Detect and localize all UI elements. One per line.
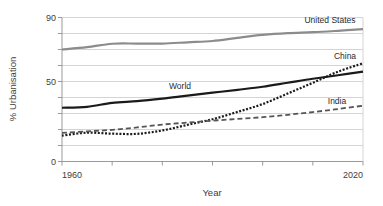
y-axis-ticks	[58, 18, 62, 162]
series-line-united-states	[62, 29, 363, 49]
y-tick-label-50: 50	[46, 77, 56, 87]
series-line-world	[62, 72, 363, 108]
y-tick-label-90: 90	[46, 13, 56, 23]
chart-canvas: 90 50 0 1960 2020 Year % Urbanisation Un…	[0, 0, 383, 206]
plot-frame	[62, 18, 363, 162]
data-series-group	[62, 29, 363, 135]
gridlines-group	[62, 34, 363, 146]
series-label-world: World	[169, 81, 191, 91]
y-tick-label-0: 0	[51, 157, 56, 167]
x-axis-ticks	[62, 162, 363, 166]
series-label-india: India	[328, 96, 347, 106]
series-line-china	[62, 63, 363, 135]
x-tick-label-2020: 2020	[343, 170, 363, 180]
series-label-united-states: United States	[304, 15, 355, 25]
y-axis-title: % Urbanisation	[7, 57, 18, 121]
x-axis-title: Year	[202, 187, 221, 198]
urbanisation-line-chart: 90 50 0 1960 2020 Year % Urbanisation Un…	[0, 0, 383, 206]
x-tick-label-1960: 1960	[62, 170, 82, 180]
series-label-china: China	[334, 51, 356, 61]
